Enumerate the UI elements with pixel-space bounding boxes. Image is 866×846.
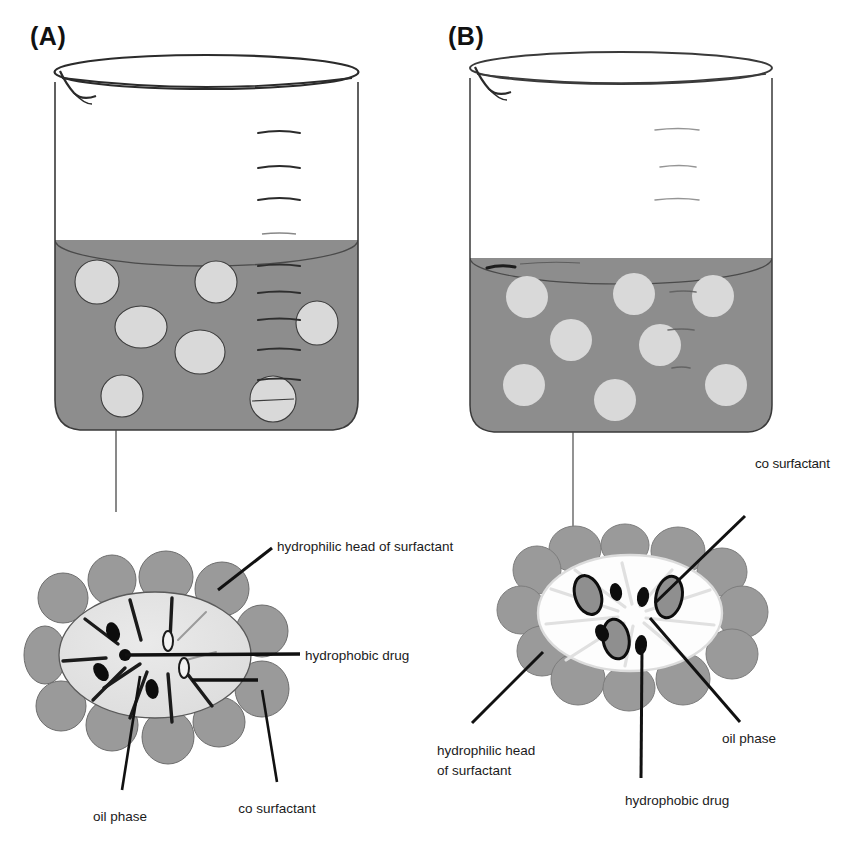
droplet bbox=[503, 364, 545, 406]
diagram-svg bbox=[0, 0, 866, 846]
figure-canvas: (A) (B) bbox=[0, 0, 866, 846]
callout-hydrophilic-head-b-line2: of surfactant bbox=[437, 762, 511, 779]
droplet bbox=[75, 260, 119, 304]
callout-hydrophilic-head-a: hydrophilic head of surfactant bbox=[277, 538, 453, 555]
graduation-marks-b bbox=[655, 129, 699, 201]
callout-hydrophobic-drug-b: hydrophobic drug bbox=[625, 792, 729, 809]
graduation-marks-a bbox=[258, 131, 300, 200]
oil-core bbox=[538, 555, 722, 671]
leader-hydrophobic-drug-b bbox=[641, 648, 642, 778]
droplet bbox=[101, 375, 143, 417]
droplet bbox=[705, 364, 747, 406]
droplet bbox=[613, 273, 655, 315]
beaker-b bbox=[470, 52, 772, 432]
droplet bbox=[550, 319, 592, 361]
callout-oil-phase-a: oil phase bbox=[82, 808, 158, 825]
droplet bbox=[639, 324, 681, 366]
droplet bbox=[506, 276, 548, 318]
droplet bbox=[692, 275, 734, 317]
callout-co-surfactant-a: co surfactant bbox=[222, 800, 332, 817]
micelle-a bbox=[24, 548, 300, 790]
callout-oil-phase-b: oil phase bbox=[722, 730, 776, 747]
callout-cosurfactant-b: co surfactant bbox=[755, 455, 830, 472]
leader-hydrophobic-drug-a bbox=[125, 654, 300, 655]
droplet bbox=[195, 261, 237, 303]
leader-hydrophilic-head-b bbox=[472, 652, 543, 723]
droplet bbox=[115, 306, 167, 348]
callout-hydrophobic-drug-a: hydrophobic drug bbox=[305, 647, 409, 664]
callout-hydrophilic-head-b-line1: hydrophilic head bbox=[437, 742, 535, 759]
beaker-a bbox=[55, 55, 359, 430]
droplet bbox=[296, 301, 338, 345]
droplet bbox=[175, 330, 225, 374]
droplet bbox=[594, 379, 636, 421]
